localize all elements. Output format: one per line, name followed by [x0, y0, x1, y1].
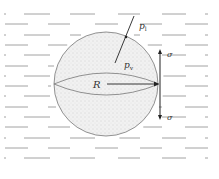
surface-point: [125, 36, 128, 39]
tension-bottom-label: σ: [167, 113, 173, 122]
radius-label: R: [92, 79, 101, 90]
tension-arrow-up: [158, 49, 162, 54]
tension-arrow-down: [158, 115, 162, 120]
bubble-diagram: pl pv R σ σ: [0, 0, 219, 179]
outer-pressure-label: pl: [139, 21, 147, 32]
tension-top-label: σ: [167, 50, 173, 59]
